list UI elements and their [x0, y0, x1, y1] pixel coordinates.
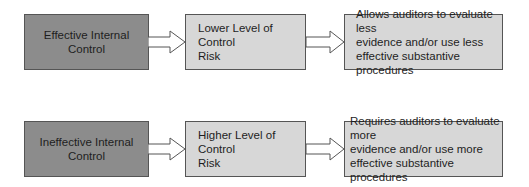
effect-label-line2: evidence and/or use more — [350, 142, 502, 156]
allows-less-evidence-box: Allows auditors to evaluate less evidenc… — [344, 14, 503, 70]
risk-label-line2: Risk — [198, 156, 305, 170]
arrow-right-icon — [306, 30, 344, 54]
effect-label-line3: effective substantive procedures — [356, 49, 502, 77]
arrow-right-icon — [148, 137, 186, 161]
effect-label-line1: Allows auditors to evaluate less — [356, 7, 502, 35]
cause-label: Ineffective Internal Control — [25, 135, 148, 163]
cause-label: Effective Internal Control — [25, 28, 148, 56]
risk-label-line2: Risk — [198, 49, 305, 63]
lower-control-risk-box: Lower Level of Control Risk — [185, 14, 306, 70]
arrow-right-icon — [306, 137, 344, 161]
risk-label-line1: Lower Level of Control — [198, 21, 305, 49]
requires-more-evidence-box: Requires auditors to evaluate more evide… — [344, 121, 503, 177]
effect-label-line2: evidence and/or use less — [356, 35, 502, 49]
effective-internal-control-box: Effective Internal Control — [24, 14, 149, 70]
effect-label-line1: Requires auditors to evaluate more — [350, 114, 502, 142]
effect-label-line3: effective substantive procedures — [350, 156, 502, 184]
risk-label-line1: Higher Level of Control — [198, 128, 305, 156]
higher-control-risk-box: Higher Level of Control Risk — [185, 121, 306, 177]
ineffective-internal-control-box: Ineffective Internal Control — [24, 121, 149, 177]
arrow-right-icon — [148, 30, 186, 54]
